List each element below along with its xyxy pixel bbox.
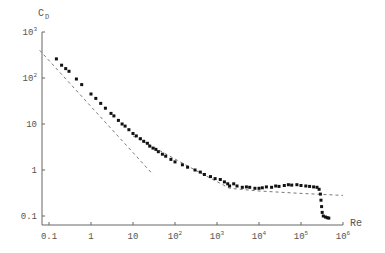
data-point-marker [312,185,315,188]
data-point-marker [194,169,197,172]
x-tick-label: 106 [336,230,351,242]
data-point-marker [110,112,113,115]
data-point-marker [253,187,256,190]
axes [42,32,343,225]
data-point-marker [161,153,164,156]
y-axis-ticks: 0.1110102103 [21,26,45,222]
data-point-marker [146,142,149,145]
y-tick-label: 102 [23,72,38,84]
reference-lines [40,50,343,195]
data-point-marker [132,132,135,135]
data-point-marker [270,186,273,189]
data-point-marker [232,182,235,185]
data-point-marker [99,102,102,105]
data-point-marker [327,217,330,220]
x-tick-label: 1 [88,232,93,242]
data-point-marker [104,107,107,110]
data-point-marker [199,171,202,174]
data-point-marker [214,177,217,180]
data-point-marker [157,150,160,153]
data-point-marker [300,184,303,187]
data-point-marker [320,205,323,208]
data-point-marker [203,173,206,176]
data-point-marker [304,185,307,188]
x-tick-label: 0.1 [41,232,57,242]
x-tick-label: 105 [294,230,309,242]
data-point-marker [121,123,124,126]
data-point-marker [117,119,120,122]
dashed-reference-line [40,50,153,174]
data-point-marker [135,134,138,137]
data-point-marker [181,163,184,166]
y-tick-label: 103 [23,26,38,38]
data-point-marker [169,158,172,161]
data-point-marker [127,128,130,131]
data-point-marker [164,155,167,158]
y-tick-label: 10 [26,120,37,130]
data-point-marker [80,83,83,86]
data-point-marker [295,183,298,186]
data-point-marker [241,186,244,189]
data-point-marker [219,178,222,181]
data-point-marker [94,97,97,100]
data-point-marker [112,114,115,117]
data-point-marker [248,186,251,189]
y-axis-label-main: C [38,8,44,19]
x-axis-label: Re [350,218,362,229]
x-tick-label: 103 [210,230,225,242]
data-point-marker [174,160,177,163]
data-point-marker [90,93,93,96]
data-point-marker [228,185,231,188]
x-tick-label: 102 [168,230,183,242]
data-point-marker [318,188,321,191]
y-axis-label-sub: D [45,13,49,21]
data-point-marker [55,57,58,60]
data-point-marker [124,125,127,128]
y-axis-label: C D [38,8,49,21]
data-point-marker [236,185,239,188]
y-tick-label: 0.1 [21,212,37,222]
data-point-marker [320,199,323,202]
data-point-marker [274,185,277,188]
data-point-marker [64,67,67,70]
data-point-marker [75,78,78,81]
data-point-marker [209,175,212,178]
data-point-marker [152,147,155,150]
data-point-marker [60,64,63,67]
data-point-marker [186,166,189,169]
data-point-marker [278,185,281,188]
data-point-marker [287,183,290,186]
data-point-marker [245,185,248,188]
data-point-marker [68,70,71,73]
data-point-marker [290,184,293,187]
data-point-marker [308,185,311,188]
data-point-marker [148,145,151,148]
data-point-marker [261,186,264,189]
x-tick-label: 10 [128,232,139,242]
data-point-marker [223,180,226,183]
data-point-marker [258,187,261,190]
data-point-marker [319,193,322,196]
data-point-marker [283,184,286,187]
drag-coefficient-chart: 0.1110102103104105106 0.1110102103 Re C … [0,0,385,253]
data-point-marker [321,211,324,214]
data-point-marker [142,140,145,143]
data-points [55,57,330,219]
data-point-marker [265,185,268,188]
data-point-marker [139,137,142,140]
y-tick-label: 1 [32,166,37,176]
x-tick-label: 104 [252,230,267,242]
